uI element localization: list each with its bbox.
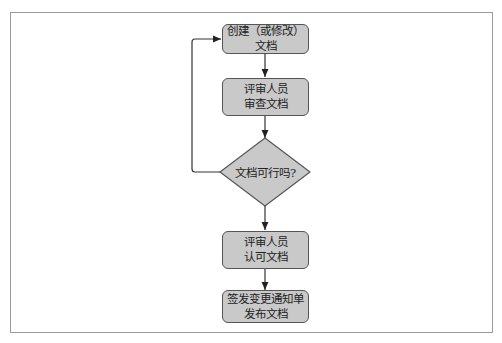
node-create-document: 创建（或修改） 文档	[222, 24, 309, 54]
node-review-document: 评审人员 审查文档	[222, 78, 309, 116]
decision-label: 文档可行吗?	[222, 164, 309, 180]
node-label: 发布文档	[244, 307, 288, 322]
node-label: 审查文档	[244, 97, 288, 112]
node-approve-document: 评审人员 认可文档	[222, 231, 309, 269]
node-label: 评审人员	[244, 235, 288, 250]
node-label: 评审人员	[244, 82, 288, 97]
node-label: 文档	[255, 39, 277, 54]
node-release-document: 签发变更通知单 发布文档	[222, 290, 309, 323]
node-label: 认可文档	[244, 250, 288, 265]
node-label: 签发变更通知单	[227, 292, 304, 307]
node-label: 创建（或修改）	[227, 24, 304, 39]
